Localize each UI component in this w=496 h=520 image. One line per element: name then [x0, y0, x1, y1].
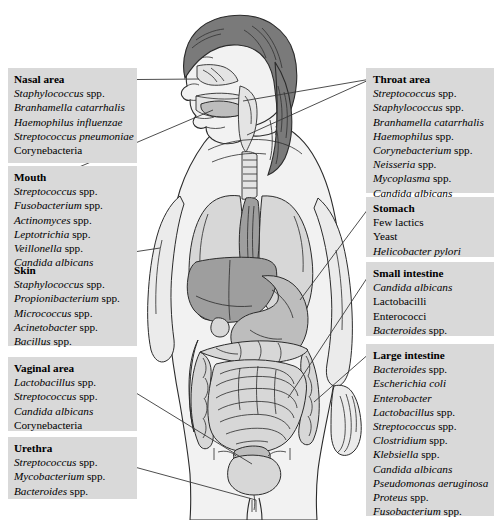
label-entry-suffix: spp.	[435, 87, 456, 99]
label-entry: Candida albicans	[14, 404, 97, 418]
label-entry: Streptococcus spp.	[14, 455, 105, 469]
label-entry-suffix: spp.	[434, 406, 455, 418]
label-entry: Candida albicans	[373, 280, 452, 294]
label-entry-suffix: spp.	[84, 278, 105, 290]
label-entry: Streptococcus spp.	[14, 389, 97, 403]
label-entry-suffix: spp.	[82, 199, 103, 211]
label-title-mouth: Mouth	[14, 170, 103, 184]
label-entry: Mycobacterium spp.	[14, 469, 105, 483]
label-title-small-intestine: Small intestine	[373, 266, 452, 280]
label-entry: Fusobacterium spp.	[373, 504, 488, 518]
label-entry: Corynebacterium spp.	[373, 143, 484, 157]
label-entry: Staphylococcus spp.	[14, 86, 134, 100]
label-title-nasal-area: Nasal area	[14, 72, 134, 86]
label-entry: Helicobacter pylori	[373, 244, 461, 258]
label-entry-suffix: spp.	[441, 505, 462, 517]
label-entry-suffix: spp.	[426, 434, 447, 446]
label-block-throat-area: Throat areaStreptococcus spp.Staphylococ…	[373, 72, 484, 200]
label-entry-suffix: spp.	[435, 420, 456, 432]
label-entry: Branhamella catarrhalis	[373, 115, 484, 129]
label-entry: Streptococcus spp.	[373, 86, 484, 100]
label-entry-suffix: spp.	[76, 456, 97, 468]
label-entry-suffix: spp.	[443, 101, 464, 113]
label-entry: Streptococcus pneumoniae	[14, 129, 134, 143]
label-block-mouth: MouthStreptococcus spp.Fusobacterium spp…	[14, 170, 103, 269]
label-entry-suffix: spp.	[84, 470, 105, 482]
label-title-large-intestine: Large intestine	[373, 348, 488, 362]
label-entry: Corynebacteria	[14, 418, 97, 432]
trachea	[242, 152, 257, 200]
label-entry: Lactobacillus spp.	[373, 405, 488, 419]
label-entry-suffix: spp.	[77, 321, 98, 333]
label-entry-suffix: spp.	[433, 130, 454, 142]
label-block-skin: SkinStaphylococcus spp.Propionibacterium…	[14, 263, 120, 348]
label-block-stomach: StomachFew lacticsYeastHelicobacter pylo…	[373, 201, 461, 258]
label-entry: Lactobacillus spp.	[14, 375, 97, 389]
label-entry-suffix: spp.	[76, 390, 97, 402]
label-entry: Klebsiella spp.	[373, 447, 488, 461]
label-block-urethra: UrethraStreptococcus spp.Mycobacterium s…	[14, 441, 105, 498]
label-entry: Veillonella spp.	[14, 241, 103, 255]
label-title-throat-area: Throat area	[373, 72, 484, 86]
label-title-skin: Skin	[14, 263, 120, 277]
label-entry-suffix: spp.	[451, 144, 472, 156]
label-entry: Bacteroides spp.	[373, 362, 488, 376]
label-entry: Staphylococcus spp.	[14, 277, 120, 291]
label-entry: Escherichia coli	[373, 376, 488, 390]
label-entry: Enterobacter	[373, 391, 488, 405]
label-entry: Bacillus spp.	[14, 334, 120, 348]
label-entry: Acinetobacter spp.	[14, 320, 120, 334]
label-entry: Mycoplasma spp.	[373, 171, 484, 185]
label-entry: Fusobacterium spp.	[14, 198, 103, 212]
label-entry: Candida albicans	[373, 186, 484, 200]
label-entry-suffix: spp.	[62, 242, 83, 254]
label-entry-suffix: spp.	[426, 324, 447, 336]
label-block-small-intestine: Small intestineCandida albicansLactobaci…	[373, 266, 452, 337]
label-entry: Pseudomonas aeruginosa	[373, 476, 488, 490]
label-entry-suffix: spp.	[407, 491, 428, 503]
label-entry: Haemophilus influenzae	[14, 115, 134, 129]
label-block-nasal-area: Nasal areaStaphylococcus spp.Branhamella…	[14, 72, 134, 157]
label-entry-suffix: spp.	[430, 172, 451, 184]
label-entry: Propionibacterium spp.	[14, 291, 120, 305]
label-entry-suffix: spp.	[415, 158, 436, 170]
label-entry: Candida albicans	[373, 462, 488, 476]
label-entry: Branhamella catarrhalis	[14, 100, 134, 114]
label-entry-suffix: spp.	[71, 307, 92, 319]
label-entry: Clostridium spp.	[373, 433, 488, 447]
label-entry: Lactobacilli	[373, 294, 452, 308]
label-entry: Proteus spp.	[373, 490, 488, 504]
label-entry: Actinomyces spp.	[14, 213, 103, 227]
label-entry: Bacteroides spp.	[373, 323, 452, 337]
label-title-vaginal-area: Vaginal area	[14, 361, 97, 375]
label-entry: Yeast	[373, 229, 461, 243]
microbiota-diagram-figure: .ol { fill:none; stroke:#2b2b2b; stroke-…	[0, 0, 496, 520]
label-entry-suffix: spp.	[69, 228, 90, 240]
label-entry-suffix: spp.	[84, 87, 105, 99]
label-block-vaginal-area: Vaginal areaLactobacillus spp.Streptococ…	[14, 361, 97, 432]
label-entry: Micrococcus spp.	[14, 306, 120, 320]
label-entry: Haemophilus spp.	[373, 129, 484, 143]
gallbladder	[211, 318, 229, 337]
label-title-stomach: Stomach	[373, 201, 461, 215]
label-entry-suffix: spp.	[99, 292, 120, 304]
label-entry: Streptococcus spp.	[373, 419, 488, 433]
label-entry: Streptococcus spp.	[14, 184, 103, 198]
label-block-large-intestine: Large intestineBacteroides spp.Escherich…	[373, 348, 488, 518]
label-entry: Staphylococcus spp.	[373, 100, 484, 114]
label-entry: Corynebacteria	[14, 143, 134, 157]
label-entry: Leptotrichia spp.	[14, 227, 103, 241]
label-entry-suffix: spp.	[71, 214, 92, 226]
label-title-urethra: Urethra	[14, 441, 105, 455]
label-entry: Neisseria spp.	[373, 157, 484, 171]
label-entry-suffix: spp.	[418, 448, 439, 460]
label-entry-suffix: spp.	[426, 363, 447, 375]
label-entry-suffix: spp.	[51, 335, 72, 347]
label-entry: Few lactics	[373, 215, 461, 229]
label-entry: Enterococci	[373, 309, 452, 323]
label-entry-suffix: spp.	[76, 185, 97, 197]
label-entry-suffix: spp.	[67, 485, 88, 497]
label-entry: Bacteroides spp.	[14, 484, 105, 498]
label-entry-suffix: spp.	[75, 376, 96, 388]
